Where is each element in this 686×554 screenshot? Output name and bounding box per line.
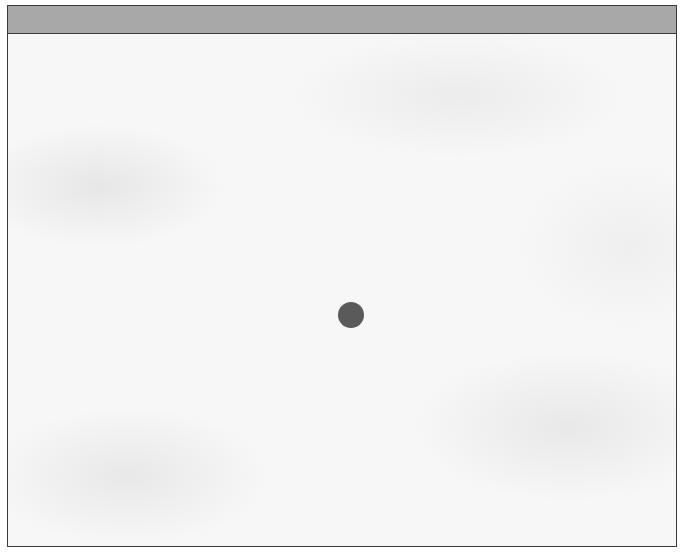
- colour-wheel-diagram: [0, 0, 686, 554]
- wheel-center-disc: [338, 302, 364, 328]
